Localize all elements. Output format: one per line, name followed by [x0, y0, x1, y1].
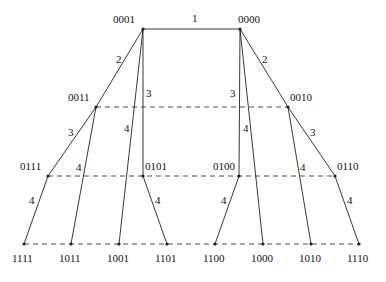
node-label-0001: 0001	[113, 13, 135, 25]
edge-weight-label: 3	[310, 126, 316, 138]
node-dot-0110	[333, 174, 336, 177]
edge-0010-0110	[288, 107, 335, 176]
node-label-0000: 0000	[238, 13, 261, 25]
edge-weight-label: 4	[243, 122, 249, 134]
node-label-1011: 1011	[59, 252, 81, 264]
edge-0010-1010	[288, 107, 311, 244]
node-label-0110: 0110	[337, 160, 359, 172]
node-label-0100: 0100	[213, 160, 236, 172]
edge-weight-label: 2	[116, 53, 122, 65]
node-dot-0001	[141, 27, 144, 30]
node-label-1000: 1000	[251, 252, 274, 264]
edge-0111-1111	[24, 176, 48, 244]
node-label-1001: 1001	[107, 252, 129, 264]
node-label-0010: 0010	[290, 91, 313, 103]
edge-weight-label: 4	[155, 194, 161, 206]
edge-weight-label: 4	[300, 161, 306, 173]
edge-0101-1101	[143, 176, 167, 244]
node-dot-0011	[94, 105, 97, 108]
node-dot-1110	[357, 242, 360, 245]
node-dot-1101	[165, 242, 168, 245]
edge-0011-0111	[48, 107, 96, 176]
node-label-0111: 0111	[20, 160, 41, 172]
tree-diagram: 122333344444444 000100000011001001110101…	[0, 0, 386, 282]
node-label-0011: 0011	[68, 91, 90, 103]
edge-weight-label: 3	[146, 87, 152, 99]
node-dot-0111	[46, 174, 49, 177]
nodes: 0001000000110010011101010100011011111011…	[12, 13, 369, 264]
node-label-1110: 1110	[347, 252, 369, 264]
node-label-1100: 1100	[203, 252, 225, 264]
edge-weight-label: 4	[124, 122, 130, 134]
node-label-1010: 1010	[299, 252, 322, 264]
node-dot-1100	[213, 242, 216, 245]
edge-0011-1011	[71, 107, 96, 244]
edge-weight-label: 4	[29, 194, 35, 206]
node-label-0101: 0101	[145, 160, 167, 172]
edge-0110-1110	[335, 176, 359, 244]
node-dot-0100	[237, 174, 240, 177]
edge-0100-1100	[215, 176, 239, 244]
edge-weight-label: 4	[221, 194, 227, 206]
edge-weight-label: 4	[76, 161, 82, 173]
edge-weight-label: 3	[68, 126, 74, 138]
node-dot-1010	[309, 242, 312, 245]
node-label-1111: 1111	[12, 252, 33, 264]
edge-0000-0100	[239, 29, 240, 176]
edge-weight-label: 1	[192, 12, 198, 24]
node-dot-0010	[286, 105, 289, 108]
edges: 122333344444444	[24, 12, 359, 244]
edge-0001-1001	[119, 29, 143, 244]
node-dot-0000	[238, 27, 241, 30]
node-dot-1000	[261, 242, 264, 245]
node-dot-1001	[117, 242, 120, 245]
edge-weight-label: 4	[347, 194, 353, 206]
node-label-1101: 1101	[155, 252, 177, 264]
edge-weight-label: 3	[230, 87, 236, 99]
diagram-canvas: 122333344444444 000100000011001001110101…	[0, 0, 386, 282]
dashed-level-lines	[24, 107, 359, 244]
node-dot-1111	[22, 242, 25, 245]
node-dot-1011	[69, 242, 72, 245]
node-dot-0101	[141, 174, 144, 177]
edge-weight-label: 2	[262, 53, 268, 65]
